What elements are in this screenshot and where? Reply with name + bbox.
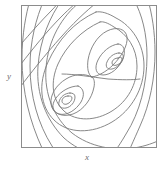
x-axis-label: x xyxy=(85,153,89,162)
contour-plot-canvas xyxy=(0,0,168,169)
figure-background xyxy=(0,0,168,169)
contour-plot-figure: y x xyxy=(0,0,168,169)
y-axis-label: y xyxy=(7,72,11,81)
